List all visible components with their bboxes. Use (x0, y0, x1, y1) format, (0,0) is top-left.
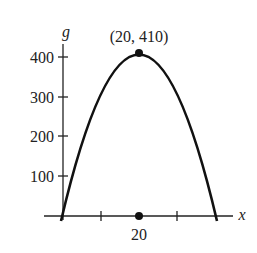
vertex-point (135, 49, 143, 57)
y-tick-label-200: 200 (30, 128, 54, 145)
y-axis-label: g (62, 23, 70, 41)
y-tick-label-400: 400 (30, 49, 54, 66)
x-axis-point (135, 212, 143, 220)
x-axis-label: x (237, 206, 245, 223)
vertex-label: (20, 410) (110, 28, 169, 46)
x-tick-label-20: 20 (131, 226, 147, 243)
y-tick-label-300: 300 (30, 89, 54, 106)
y-tick-label-100: 100 (30, 168, 54, 185)
parabola-curve (61, 55, 217, 222)
parabola-chart: 400 300 200 100 g x 20 (20, 410) (0, 0, 257, 253)
